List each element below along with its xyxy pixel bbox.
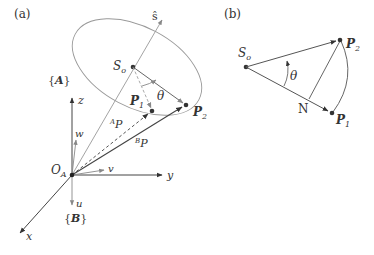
bp-label: BP: [134, 137, 148, 150]
origin-point: [70, 173, 75, 178]
w-label: w: [75, 128, 84, 139]
origin-label: OA: [51, 163, 67, 179]
frame-b-label: {B}: [64, 212, 87, 225]
point-p2: [338, 38, 343, 43]
frame-a-label: {A}: [48, 74, 71, 87]
so-label: So: [113, 59, 126, 75]
point-p1: [150, 109, 155, 114]
panel-b: (b) So θ P2 P1 N: [224, 7, 360, 129]
x-label: x: [26, 230, 33, 243]
theta-arc: [142, 80, 156, 86]
point-p2: [184, 103, 189, 108]
u-label: u: [76, 198, 82, 209]
so-label: So: [238, 46, 251, 62]
so-to-p1-vector: [246, 67, 328, 111]
ap-label: AP: [109, 118, 123, 131]
p2-label: P2: [345, 37, 360, 53]
vector-bp: [72, 107, 182, 175]
s-hat-axis: [72, 20, 162, 175]
panel-a: (a) ŝ So θ P1 P2 AP BP {A} z y x: [14, 0, 218, 243]
p1-label: P1: [335, 113, 350, 129]
p2-label: P2: [192, 105, 207, 121]
point-p1: [330, 111, 335, 116]
panel-b-label: (b): [224, 7, 241, 21]
v-label: v: [108, 163, 114, 174]
panel-a-label: (a): [14, 7, 31, 21]
y-label: y: [166, 169, 174, 182]
n-label: N: [298, 102, 309, 116]
theta-arc: [284, 61, 288, 86]
theta-label: θ: [290, 69, 298, 83]
z-label: z: [77, 94, 84, 107]
s-hat-label: ŝ: [152, 10, 158, 23]
rotation-diagram: (a) ŝ So θ P1 P2 AP BP {A} z y x: [0, 0, 374, 255]
so-to-p2-vector: [246, 41, 336, 67]
n-to-p2-line: [309, 41, 340, 99]
theta-label: θ: [157, 89, 165, 103]
p1-label: P1: [129, 94, 144, 110]
arc-p2-p1: [333, 41, 348, 112]
